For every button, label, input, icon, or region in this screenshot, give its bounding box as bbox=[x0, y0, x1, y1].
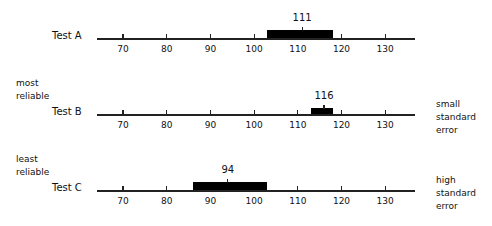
note-line: reliable bbox=[16, 90, 49, 103]
note-line: standard bbox=[436, 187, 476, 200]
note-line: most bbox=[16, 77, 49, 90]
tick-label: 80 bbox=[161, 120, 172, 130]
axis-line bbox=[97, 38, 415, 40]
axis-tick bbox=[297, 186, 298, 191]
row-label: Test C bbox=[52, 182, 82, 194]
score-marker bbox=[323, 105, 324, 109]
axis-tick bbox=[385, 34, 386, 39]
row-label: Test A bbox=[52, 30, 82, 42]
tick-label: 70 bbox=[117, 120, 128, 130]
tick-label: 100 bbox=[246, 44, 263, 54]
tick-label: 70 bbox=[117, 44, 128, 54]
tick-label: 100 bbox=[246, 120, 263, 130]
axis-tick bbox=[297, 110, 298, 115]
score-marker bbox=[302, 27, 303, 31]
tick-label: 80 bbox=[161, 44, 172, 54]
axis-line bbox=[97, 114, 415, 116]
tick-label: 120 bbox=[333, 196, 350, 206]
axis-tick bbox=[385, 110, 386, 115]
note-line: small bbox=[436, 98, 476, 111]
confidence-bar bbox=[311, 108, 333, 114]
score-marker bbox=[227, 179, 228, 183]
note-least-reliable: least reliable bbox=[16, 153, 49, 179]
note-small-standard-error: small standard error bbox=[436, 98, 476, 137]
axis-tick bbox=[166, 186, 167, 191]
tick-label: 120 bbox=[333, 44, 350, 54]
tick-label: 120 bbox=[333, 120, 350, 130]
axis-tick bbox=[385, 186, 386, 191]
axis-tick bbox=[254, 110, 255, 115]
confidence-bar bbox=[193, 182, 267, 190]
tick-label: 90 bbox=[205, 196, 216, 206]
axis-tick bbox=[341, 110, 342, 115]
axis-tick bbox=[122, 186, 123, 191]
axis-tick bbox=[210, 34, 211, 39]
score-label: 111 bbox=[293, 12, 312, 23]
note-high-standard-error: high standard error bbox=[436, 174, 476, 213]
axis-tick bbox=[166, 34, 167, 39]
note-line: standard bbox=[436, 111, 476, 124]
row-label: Test B bbox=[52, 106, 82, 118]
tick-label: 80 bbox=[161, 196, 172, 206]
note-line: error bbox=[436, 124, 476, 137]
axis-tick bbox=[254, 34, 255, 39]
axis-tick bbox=[341, 34, 342, 39]
axis-tick bbox=[122, 34, 123, 39]
note-line: reliable bbox=[16, 166, 49, 179]
axis-line bbox=[97, 190, 415, 192]
axis-tick bbox=[210, 110, 211, 115]
tick-label: 90 bbox=[205, 44, 216, 54]
score-label: 94 bbox=[222, 164, 235, 175]
note-line: error bbox=[436, 200, 476, 213]
tick-label: 100 bbox=[246, 196, 263, 206]
tick-label: 90 bbox=[205, 120, 216, 130]
tick-label: 130 bbox=[377, 196, 394, 206]
note-most-reliable: most reliable bbox=[16, 77, 49, 103]
tick-label: 130 bbox=[377, 120, 394, 130]
tick-label: 130 bbox=[377, 44, 394, 54]
axis-tick bbox=[341, 186, 342, 191]
tick-label: 110 bbox=[289, 196, 306, 206]
axis-tick bbox=[122, 110, 123, 115]
axis-tick bbox=[166, 110, 167, 115]
note-line: high bbox=[436, 174, 476, 187]
confidence-bar bbox=[267, 30, 333, 38]
score-label: 116 bbox=[314, 90, 333, 101]
note-line: least bbox=[16, 153, 49, 166]
tick-label: 70 bbox=[117, 196, 128, 206]
tick-label: 110 bbox=[289, 44, 306, 54]
tick-label: 110 bbox=[289, 120, 306, 130]
